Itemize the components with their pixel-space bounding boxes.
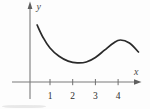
x-tick-label: 4: [116, 91, 121, 101]
x-axis-label: x: [133, 66, 139, 77]
y-axis-label: y: [36, 1, 42, 12]
x-tick-label: 1: [48, 91, 53, 101]
x-tick-label: 3: [93, 91, 98, 101]
scan-smudge: [2, 105, 46, 108]
function-curve: [37, 25, 138, 63]
figure-plot: 1234 y x: [0, 0, 150, 109]
x-axis-arrow-icon: [134, 79, 142, 84]
plot-canvas: 1234 y x: [0, 0, 150, 109]
x-tick-label: 2: [70, 91, 75, 101]
y-axis-arrow-icon: [28, 2, 33, 10]
